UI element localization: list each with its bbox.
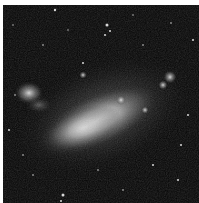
galaxy-illustration (3, 5, 199, 203)
galaxy-photo (3, 5, 199, 203)
